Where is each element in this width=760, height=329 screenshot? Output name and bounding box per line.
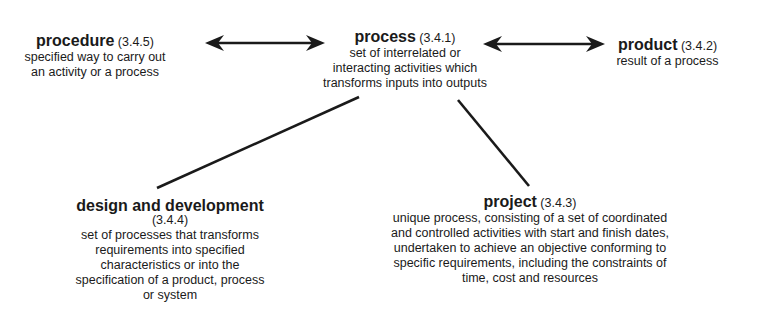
definition-line: transforms inputs into outputs bbox=[320, 76, 490, 91]
node-project: project (3.4.3) unique process, consisti… bbox=[370, 194, 690, 286]
ref-procedure: (3.4.5) bbox=[118, 35, 154, 49]
ref-product: (3.4.2) bbox=[681, 39, 717, 53]
term-procedure: procedure bbox=[36, 32, 114, 49]
arrow-process-product bbox=[483, 36, 605, 52]
ref-design-and-development: (3.4.4) bbox=[60, 213, 280, 228]
node-procedure: procedure (3.4.5) specified way to carry… bbox=[5, 33, 185, 80]
definition-line: and controlled activities with start and… bbox=[370, 226, 690, 241]
ref-project: (3.4.3) bbox=[540, 196, 576, 210]
definition-line: specified way to carry out bbox=[5, 50, 185, 65]
line-process-design bbox=[157, 97, 359, 188]
definition-line: set of interrelated or bbox=[320, 46, 490, 61]
definition-line: an activity or a process bbox=[5, 65, 185, 80]
definition-line: specification of a product, process bbox=[60, 273, 280, 288]
definition-line: interacting activities which bbox=[320, 61, 490, 76]
definition-line: undertaken to achieve an objective confo… bbox=[370, 241, 690, 256]
term-process: process bbox=[355, 28, 416, 45]
definition-line: time, cost and resources bbox=[370, 271, 690, 286]
definition-line: characteristics or into the bbox=[60, 258, 280, 273]
definition-line: set of processes that transforms bbox=[60, 228, 280, 243]
definition-line: requirements into specified bbox=[60, 243, 280, 258]
definition-line: result of a process bbox=[605, 54, 730, 69]
arrow-procedure-process bbox=[205, 35, 325, 51]
term-design-and-development: design and development bbox=[60, 198, 280, 213]
ref-process: (3.4.1) bbox=[419, 31, 455, 45]
definition-line: or system bbox=[60, 288, 280, 303]
definition-line: specific requirements, including the con… bbox=[370, 256, 690, 271]
term-product: product bbox=[618, 36, 678, 53]
node-design-and-development: design and development (3.4.4) set of pr… bbox=[60, 198, 280, 303]
node-product: product (3.4.2) result of a process bbox=[605, 37, 730, 69]
line-process-project bbox=[458, 100, 529, 186]
definition-line: unique process, consisting of a set of c… bbox=[370, 211, 690, 226]
term-project: project bbox=[484, 193, 537, 210]
node-process: process (3.4.1) set of interrelated or i… bbox=[320, 29, 490, 91]
